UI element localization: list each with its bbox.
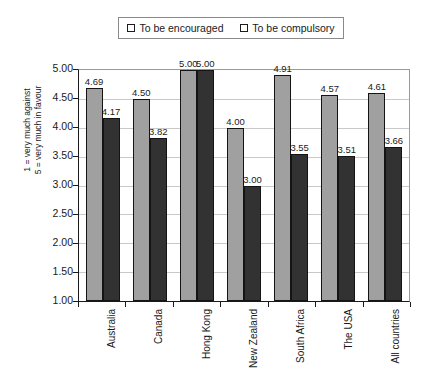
bar-compulsory[interactable]: 5.00 — [197, 70, 214, 301]
bar-encouraged[interactable]: 4.57 — [321, 95, 338, 301]
legend-label-encouraged: To be encouraged — [139, 23, 223, 34]
y-axis-tick-label: 4.50 — [33, 92, 73, 103]
legend-entry-compulsory: To be compulsory — [240, 23, 334, 34]
x-axis-label-cell: Canada — [125, 309, 172, 387]
y-axis-tick-mark — [73, 272, 78, 273]
x-axis-label-cell: All countries — [363, 309, 410, 387]
y-axis-tick-mark — [73, 185, 78, 186]
x-axis-label-cell: Hong Kong — [173, 309, 220, 387]
plot-area: 4.694.174.503.825.005.004.003.004.913.55… — [78, 69, 410, 302]
y-axis-tick-label: 2.50 — [33, 208, 73, 219]
x-axis-tick-mark — [125, 302, 126, 307]
y-axis-tick-label: 4.00 — [33, 121, 73, 132]
bar-value-label: 4.61 — [368, 82, 387, 92]
y-axis-tick-label: 5.00 — [33, 63, 73, 74]
legend-entry-encouraged: To be encouraged — [127, 23, 223, 34]
y-axis-tick-mark — [73, 98, 78, 99]
bar-compulsory[interactable]: 3.51 — [338, 156, 355, 301]
bar-encouraged[interactable]: 4.00 — [227, 128, 244, 301]
legend-label-compulsory: To be compulsory — [252, 23, 334, 34]
x-axis-label-cell: New Zealand — [220, 309, 267, 387]
bar-value-label: 4.00 — [226, 117, 245, 127]
x-axis-category-label: New Zealand — [248, 309, 259, 368]
bar-value-label: 3.51 — [338, 145, 357, 155]
y-axis-tick-label: 1.00 — [33, 295, 73, 306]
y-axis-title-line1: 1 = very much against — [22, 88, 33, 171]
y-axis-tick-label: 3.00 — [33, 179, 73, 190]
bar-value-label: 3.00 — [243, 175, 262, 185]
bar-value-label: 4.50 — [132, 88, 151, 98]
chart-legend: To be encouraged To be compulsory — [118, 17, 344, 39]
y-axis-tick-mark — [73, 127, 78, 128]
bar-group: 4.503.82 — [126, 70, 173, 301]
bar-encouraged[interactable]: 5.00 — [180, 70, 197, 301]
x-axis-category-label: The USA — [343, 309, 354, 350]
bar-value-label: 3.66 — [385, 136, 404, 146]
bar-group: 4.694.17 — [79, 70, 126, 301]
x-axis-tick-mark — [410, 302, 411, 307]
x-axis-tick-mark — [315, 302, 316, 307]
bar-value-label: 5.00 — [196, 59, 215, 69]
x-axis-labels: AustraliaCanadaHong KongNew ZealandSouth… — [78, 309, 410, 387]
x-axis-category-label: Canada — [153, 309, 164, 344]
x-axis-category-label: South Africa — [295, 309, 306, 363]
bar-value-label: 4.69 — [85, 77, 104, 87]
bar-compulsory[interactable]: 3.82 — [150, 138, 167, 301]
bar-group: 4.913.55 — [268, 70, 315, 301]
x-axis-tick-mark — [220, 302, 221, 307]
x-axis-category-label: Hong Kong — [201, 309, 212, 359]
bar-value-label: 4.57 — [321, 84, 340, 94]
bar-compulsory[interactable]: 3.66 — [385, 147, 402, 301]
x-axis-label-cell: Australia — [78, 309, 125, 387]
square-swatch-icon — [240, 24, 248, 32]
x-axis-category-label: Australia — [106, 309, 117, 348]
y-axis-tick-mark — [73, 156, 78, 157]
bar-group: 4.573.51 — [315, 70, 362, 301]
bar-encouraged[interactable]: 4.69 — [86, 88, 103, 301]
bar-group: 4.613.66 — [362, 70, 409, 301]
bar-value-label: 5.00 — [179, 59, 198, 69]
bar-value-label: 4.17 — [102, 107, 121, 117]
x-axis-tick-mark — [363, 302, 364, 307]
y-axis-tick-mark — [73, 243, 78, 244]
bar-encouraged[interactable]: 4.91 — [274, 75, 291, 301]
y-axis-tick-mark — [73, 69, 78, 70]
x-axis-tick-mark — [173, 302, 174, 307]
bar-compulsory[interactable]: 3.00 — [244, 186, 261, 302]
y-axis-tick-label: 1.50 — [33, 266, 73, 277]
bar-encouraged[interactable]: 4.50 — [133, 99, 150, 301]
y-axis-tick-label: 2.00 — [33, 237, 73, 248]
bar-value-label: 3.55 — [290, 143, 309, 153]
x-axis-label-cell: South Africa — [268, 309, 315, 387]
x-axis-tick-mark — [78, 302, 79, 307]
bar-group: 5.005.00 — [173, 70, 220, 301]
bar-encouraged[interactable]: 4.61 — [368, 93, 385, 301]
x-axis-tick-mark — [268, 302, 269, 307]
bar-value-label: 4.91 — [273, 64, 292, 74]
bar-value-label: 3.82 — [149, 127, 168, 137]
x-axis-category-label: All countries — [390, 309, 401, 363]
y-axis-tick-mark — [73, 214, 78, 215]
bar-compulsory[interactable]: 4.17 — [103, 118, 120, 301]
square-swatch-icon — [127, 24, 135, 32]
y-axis-tick-label: 3.50 — [33, 150, 73, 161]
bar-groups: 4.694.174.503.825.005.004.003.004.913.55… — [79, 70, 409, 301]
bar-compulsory[interactable]: 3.55 — [291, 154, 308, 301]
bar-group: 4.003.00 — [220, 70, 267, 301]
x-axis-label-cell: The USA — [315, 309, 362, 387]
